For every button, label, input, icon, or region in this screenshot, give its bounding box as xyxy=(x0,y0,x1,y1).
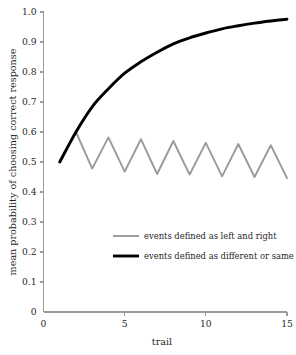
y-tick-label: 0.1 xyxy=(22,276,37,287)
chart-figure: 00.10.20.30.40.50.60.70.80.91.0 051015 e… xyxy=(0,0,296,355)
y-tick-label: 0.6 xyxy=(22,126,37,137)
probability-axis: 00.10.20.30.40.50.60.70.80.91.0 xyxy=(22,6,44,317)
y-tick-label: 0.9 xyxy=(22,36,37,47)
x-tick-label: 5 xyxy=(122,318,128,329)
y-tick-label: 1.0 xyxy=(22,6,37,17)
y-tick-label: 0.2 xyxy=(22,246,37,257)
y-tick-label: 0.7 xyxy=(22,96,37,107)
series-layer xyxy=(60,19,287,178)
y-axis-title: mean probability of choosing correct res… xyxy=(7,48,18,275)
chart-legend: events defined as left and rightevents d… xyxy=(113,231,294,261)
x-tick-label: 10 xyxy=(200,318,212,329)
y-tick-label: 0 xyxy=(31,306,37,317)
y-tick-label: 0.4 xyxy=(22,186,37,197)
line-chart: 00.10.20.30.40.50.60.70.80.91.0 051015 e… xyxy=(0,0,296,355)
y-tick-label: 0.3 xyxy=(22,216,37,227)
trail-axis: 051015 xyxy=(41,312,293,329)
x-tick-label: 0 xyxy=(41,318,47,329)
y-tick-label: 0.5 xyxy=(22,156,37,167)
legend-label-1: events defined as left and right xyxy=(144,231,277,241)
legend-label-2: events defined as different or same xyxy=(144,251,294,261)
series-line-1 xyxy=(60,132,287,178)
y-tick-label: 0.8 xyxy=(22,66,37,77)
x-axis-title: trail xyxy=(152,336,172,347)
x-tick-label: 15 xyxy=(281,318,293,329)
